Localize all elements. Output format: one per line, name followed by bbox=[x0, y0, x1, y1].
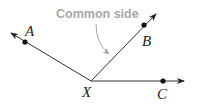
point-b-dot bbox=[141, 22, 146, 27]
point-a-dot bbox=[22, 39, 27, 44]
callout-arrow-icon bbox=[96, 24, 109, 54]
point-b-label: B bbox=[142, 33, 151, 49]
common-side-callout: Common side bbox=[56, 7, 139, 21]
ray-xa bbox=[11, 33, 91, 81]
point-a-label: A bbox=[24, 23, 35, 39]
vertex-x-label: X bbox=[81, 84, 92, 100]
point-c-dot bbox=[160, 78, 165, 83]
point-c-label: C bbox=[157, 86, 168, 102]
angle-diagram: A B C X Common side bbox=[0, 0, 199, 112]
